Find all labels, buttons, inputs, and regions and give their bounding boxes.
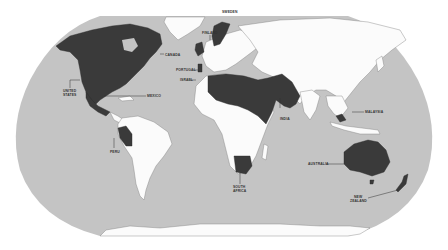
svg-text:INDIA: INDIA: [280, 117, 290, 121]
svg-text:AFRICA: AFRICA: [233, 189, 247, 193]
svg-text:CANADA: CANADA: [165, 53, 181, 57]
svg-text:PORTUGAL: PORTUGAL: [176, 68, 196, 72]
svg-text:ZEALAND: ZEALAND: [350, 199, 367, 203]
label-sweden: SWEDEN: [222, 10, 238, 14]
svg-text:MALAYSIA: MALAYSIA: [365, 110, 384, 114]
world-map: CANADA SWEDEN FINLAND PORTUGAL ISRAEL UN…: [0, 0, 448, 250]
svg-text:STATES: STATES: [63, 93, 77, 97]
svg-text:SWEDEN: SWEDEN: [222, 10, 238, 14]
svg-text:AUSTRALIA: AUSTRALIA: [308, 162, 329, 166]
svg-text:FINLAND: FINLAND: [202, 31, 218, 35]
svg-text:ISRAEL: ISRAEL: [180, 78, 193, 82]
svg-text:MEXICO: MEXICO: [147, 94, 161, 98]
portugal-highlighted: [198, 64, 202, 72]
label-portugal: PORTUGAL: [176, 68, 198, 72]
svg-text:PERU: PERU: [110, 150, 120, 154]
